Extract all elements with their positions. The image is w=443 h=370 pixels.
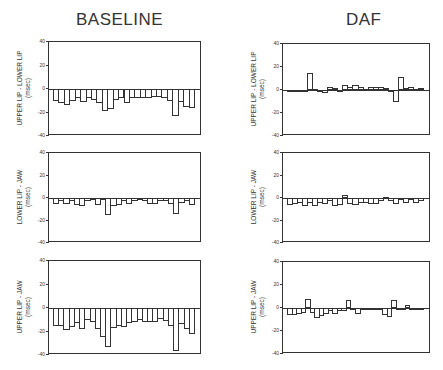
y-tick-label: 20 — [265, 281, 279, 287]
y-tick-label: 40 — [265, 40, 279, 46]
plot-area — [282, 43, 430, 135]
y-axis-label: LOWER LIP - JAW(msec) — [250, 152, 266, 242]
y-tick-label: -20 — [31, 217, 45, 223]
y-tick-mark — [280, 135, 283, 136]
y-tick-label: 0 — [265, 194, 279, 200]
y-tick-label: 0 — [265, 304, 279, 310]
y-tick-label: 20 — [31, 172, 45, 178]
bar — [400, 308, 406, 310]
y-tick-label: 40 — [31, 38, 45, 44]
y-tick-label: -20 — [265, 109, 279, 115]
plot-area — [282, 152, 430, 242]
y-tick-mark — [46, 135, 49, 136]
bar — [302, 90, 308, 92]
y-tick-label: -20 — [31, 109, 45, 115]
y-tick-label: -40 — [31, 239, 45, 245]
y-tick-label: 0 — [265, 86, 279, 92]
bar — [305, 299, 311, 308]
plot-area — [282, 261, 430, 353]
bar — [393, 90, 399, 102]
y-axis-label: UPPER LIP - JAW(msec) — [16, 260, 32, 354]
y-tick-label: -40 — [265, 350, 279, 356]
y-tick-label: 40 — [31, 257, 45, 263]
plot-area — [48, 152, 201, 242]
y-tick-label: 0 — [31, 194, 45, 200]
y-tick-label: 40 — [31, 149, 45, 155]
plot-area — [48, 41, 201, 135]
y-tick-label: -40 — [31, 132, 45, 138]
y-tick-label: -40 — [265, 239, 279, 245]
y-tick-label: -40 — [31, 351, 45, 357]
y-tick-label: 0 — [31, 304, 45, 310]
y-axis-label: UPPER LIP - LOWER LIP(msec) — [250, 43, 266, 135]
bar — [418, 88, 424, 90]
y-tick-mark — [46, 242, 49, 243]
daf-title: DAF — [346, 10, 382, 30]
y-tick-label: -20 — [265, 217, 279, 223]
y-tick-mark — [280, 353, 283, 354]
y-tick-label: -20 — [265, 327, 279, 333]
y-tick-mark — [280, 242, 283, 243]
y-tick-label: -20 — [31, 328, 45, 334]
y-axis-label: UPPER LIP - JAW(msec) — [250, 261, 266, 353]
bar — [341, 308, 347, 311]
bar — [322, 90, 328, 93]
bar — [301, 308, 307, 313]
y-tick-label: -40 — [265, 132, 279, 138]
y-tick-label: 20 — [31, 62, 45, 68]
bar — [189, 89, 195, 108]
baseline-title: BASELINE — [76, 10, 163, 30]
y-tick-label: 40 — [265, 258, 279, 264]
y-axis-label: LOWER LIP - JAW(msec) — [16, 152, 32, 242]
bar — [337, 198, 343, 205]
bar — [189, 308, 195, 334]
bar — [418, 308, 424, 310]
y-axis-label: UPPER LIP - LOWER LIP(msec) — [16, 41, 32, 135]
bar — [418, 198, 424, 201]
bar — [337, 90, 343, 92]
y-tick-label: 40 — [265, 149, 279, 155]
plot-area — [48, 260, 201, 354]
y-tick-label: 20 — [265, 63, 279, 69]
bar — [307, 73, 313, 90]
y-tick-label: 0 — [31, 85, 45, 91]
bar — [387, 308, 393, 317]
y-tick-label: 20 — [265, 172, 279, 178]
bar — [391, 300, 397, 308]
bar — [189, 198, 195, 205]
bar — [346, 300, 352, 308]
y-tick-label: 20 — [31, 281, 45, 287]
y-tick-mark — [46, 354, 49, 355]
